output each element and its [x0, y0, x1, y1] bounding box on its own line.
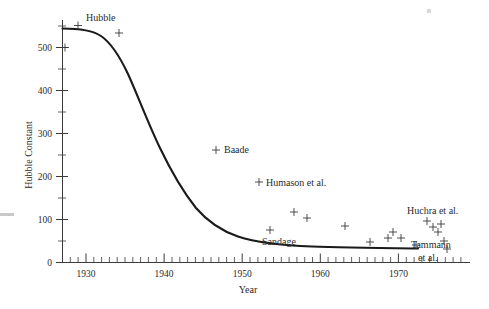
x-tick-label-1930: 1930: [77, 269, 96, 279]
y-tick-label-100: 100: [38, 215, 53, 225]
data-point-baade: [212, 146, 220, 154]
x-tick-label-1940: 1940: [155, 269, 174, 279]
x-tick-label-1970: 1970: [389, 269, 408, 279]
annotation-hubble: Hubble: [86, 12, 116, 23]
y-axis-title: Hubble Constant: [23, 121, 34, 189]
y-tick-label-300: 300: [38, 129, 53, 139]
annotation-baade: Baade: [224, 144, 250, 155]
x-axis-title: Year: [239, 284, 258, 295]
data-point-huchra-4: [437, 220, 445, 228]
data-point-1968: [341, 222, 349, 230]
chart-canvas: 500 400 300 200 100 0: [0, 0, 489, 309]
data-point-1974b: [389, 228, 397, 236]
data-point-huchra-3: [434, 228, 442, 236]
data-point-huchra-1: [423, 217, 431, 225]
data-point-hubble-2: [115, 29, 123, 37]
y-tick-label-400: 400: [38, 86, 53, 96]
y-tick-label-0: 0: [47, 258, 52, 268]
data-point-1960: [290, 208, 298, 216]
series-annotations: Hubble Baade Humason et al. Sandage Huch…: [86, 12, 458, 263]
data-point-sandage: [266, 226, 274, 234]
hubble-trend-curve: [63, 29, 419, 249]
data-point-1974a: [384, 234, 392, 242]
data-point-1962: [303, 214, 311, 222]
annotation-sandage: Sandage: [262, 236, 296, 247]
x-tick-label-1960: 1960: [311, 269, 330, 279]
annotation-humason: Humason et al.: [266, 177, 326, 188]
annotation-tammann-line1: Tammann: [411, 239, 451, 250]
x-axis-minor-ticks: [70, 257, 461, 263]
hubble-constant-chart: 500 400 300 200 100 0: [0, 0, 489, 309]
y-tick-label-200: 200: [38, 172, 53, 182]
data-point-huchra-2: [429, 223, 437, 231]
annotation-tammann-line2: et al.: [418, 252, 437, 263]
x-tick-label-1950: 1950: [233, 269, 252, 279]
axis-lines: [63, 20, 471, 263]
scan-speck: [427, 9, 431, 13]
y-tick-label-500: 500: [38, 43, 53, 53]
data-point-humason: [255, 178, 263, 186]
data-point-1975: [397, 234, 405, 242]
data-point-1971: [366, 238, 374, 246]
y-tick-labels: 500 400 300 200 100 0: [38, 43, 53, 268]
x-tick-labels: 1930 1940 1950 1960 1970: [77, 269, 409, 279]
edge-artifact-mark: [0, 213, 14, 216]
annotation-huchra: Huchra et al.: [407, 205, 458, 216]
